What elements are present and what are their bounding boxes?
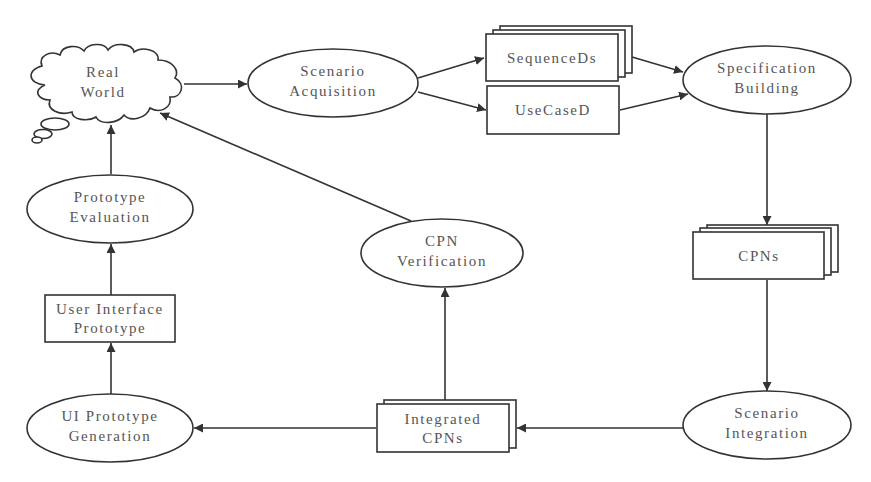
node-label: CPNs bbox=[738, 248, 779, 264]
node-integrated-cpns[interactable]: Integrated CPNs bbox=[377, 400, 516, 452]
node-label-line1: Real bbox=[86, 64, 120, 80]
node-label-line1: Specification bbox=[717, 60, 817, 76]
node-label-line2: Verification bbox=[397, 253, 487, 269]
node-ui-prototype-generation[interactable]: UI Prototype Generation bbox=[27, 394, 193, 462]
node-label-line2: CPNs bbox=[422, 430, 463, 446]
edge-usecased-to-specification bbox=[620, 94, 688, 110]
node-label-line2: Evaluation bbox=[70, 209, 151, 225]
node-label-line1: Prototype bbox=[74, 189, 147, 205]
node-real-world[interactable]: Real World bbox=[31, 44, 181, 143]
edge-verification-to-realworld bbox=[160, 113, 411, 221]
thought-bubble-small bbox=[32, 137, 42, 143]
edge-sequenceds-to-specification bbox=[632, 57, 683, 72]
node-label-line1: Scenario bbox=[734, 405, 799, 421]
node-label-line2: Acquisition bbox=[289, 83, 377, 99]
node-label-line2: Prototype bbox=[74, 320, 147, 336]
node-label-line2: Building bbox=[734, 80, 799, 96]
node-user-interface-prototype[interactable]: User Interface Prototype bbox=[45, 295, 175, 342]
node-use-case-d[interactable]: UseCaseD bbox=[487, 86, 619, 134]
node-prototype-evaluation[interactable]: Prototype Evaluation bbox=[27, 175, 193, 243]
node-label-line2: World bbox=[80, 84, 125, 100]
node-label-line1: Integrated bbox=[405, 411, 482, 427]
node-label-line1: CPN bbox=[425, 233, 459, 249]
node-specification-building[interactable]: Specification Building bbox=[683, 46, 851, 114]
node-cpns[interactable]: CPNs bbox=[693, 225, 838, 279]
edge-acquisition-to-usecased bbox=[418, 92, 486, 110]
node-scenario-integration[interactable]: Scenario Integration bbox=[683, 391, 851, 459]
thought-bubble-large bbox=[41, 118, 69, 130]
edge-acquisition-to-sequenceds bbox=[418, 58, 484, 78]
node-label-line1: Scenario bbox=[300, 63, 365, 79]
node-label: UseCaseD bbox=[515, 102, 591, 118]
node-label-line2: Integration bbox=[725, 425, 808, 441]
node-label-line2: Generation bbox=[69, 428, 152, 444]
node-cpn-verification[interactable]: CPN Verification bbox=[361, 219, 523, 287]
node-sequence-ds[interactable]: SequenceDs bbox=[486, 26, 632, 81]
node-label-line1: UI Prototype bbox=[61, 408, 158, 424]
node-label: SequenceDs bbox=[507, 50, 597, 66]
diagram-canvas: Real World Scenario Acquisition Sequence… bbox=[0, 0, 871, 482]
node-label-line1: User Interface bbox=[56, 301, 164, 317]
node-scenario-acquisition[interactable]: Scenario Acquisition bbox=[248, 49, 418, 117]
